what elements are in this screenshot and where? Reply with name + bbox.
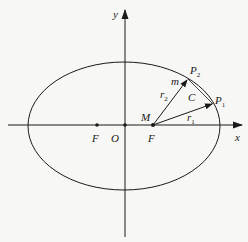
focus-right-dot (151, 123, 155, 127)
focus-left-label: F (91, 132, 99, 144)
ellipse-orbit-diagram: y x F O F M m C P2 P1 r2 r1 (0, 0, 248, 242)
vector-r2 (153, 80, 187, 125)
vector-r1 (153, 104, 212, 125)
y-axis-label: y (112, 8, 118, 20)
origin-dot (123, 123, 127, 127)
r1-label: r1 (187, 111, 195, 126)
focus-right-label: F (147, 132, 155, 144)
mass-label: m (171, 75, 179, 87)
r2-label: r2 (160, 88, 168, 103)
x-axis-label: x (234, 131, 240, 143)
origin-label: O (111, 132, 119, 144)
p2-label: P2 (189, 64, 201, 79)
arc-c-label: C (188, 91, 196, 103)
m-point-label: M (140, 111, 151, 123)
focus-left-dot (95, 123, 99, 127)
